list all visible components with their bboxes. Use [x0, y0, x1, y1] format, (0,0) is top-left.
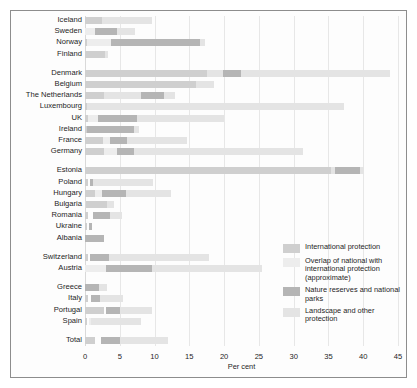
bar-segment-intl [85, 212, 88, 219]
bar-segment-landscape [120, 307, 152, 314]
x-tick-25: 25 [255, 352, 263, 361]
bar-row [85, 81, 398, 88]
y-label-iceland: Iceland [10, 16, 82, 24]
bar-segment-intl [85, 179, 88, 186]
y-label-hungary: Hungary [10, 189, 82, 197]
bar-row [85, 115, 398, 122]
y-label-ireland: Ireland [10, 125, 82, 133]
bar-segment-overlap [104, 148, 117, 155]
y-label-ukraine: Ukraine [10, 222, 82, 230]
bar-segment-nature [117, 148, 134, 155]
y-label-germany: Germany [10, 147, 82, 155]
y-label-france: France [10, 136, 82, 144]
y-label-switzerland: Switzerland [10, 253, 82, 261]
x-tick-30: 30 [289, 352, 297, 361]
x-tick-0: 0 [83, 352, 87, 361]
bar-segment-nature [85, 284, 99, 291]
bar-segment-landscape [126, 190, 171, 197]
bar-segment-intl [85, 318, 87, 325]
y-label-the-netherlands: The Netherlands [10, 91, 82, 99]
bar-segment-landscape [110, 212, 122, 219]
bar-segment-landscape [200, 39, 206, 46]
bar-segment-intl [85, 51, 105, 58]
bar-segment-intl [85, 167, 331, 174]
legend-swatch-intl [283, 244, 300, 253]
bar-segment-landscape [109, 254, 209, 261]
legend-item-intl: International protection [283, 243, 403, 253]
bar-segment-nature [85, 235, 104, 242]
bar-segment-nature [95, 28, 117, 35]
bar-segment-landscape [105, 51, 108, 58]
legend-swatch-overlap [283, 258, 300, 267]
bar-segment-landscape [100, 295, 122, 302]
x-tick-45: 45 [394, 352, 402, 361]
y-label-denmark: Denmark [10, 69, 82, 77]
bar-row [85, 223, 398, 230]
x-axis-title: Per cent [85, 362, 398, 371]
y-label-sweden: Sweden [10, 27, 82, 35]
bar-segment-nature [91, 295, 100, 302]
bar-row [85, 179, 398, 186]
bar-segment-nature [89, 223, 92, 230]
bar-segment-landscape [87, 103, 344, 110]
legend-label-nature: Nature reserves and national parks [305, 286, 403, 303]
legend-swatch-nature [283, 287, 300, 296]
bar-segment-nature [106, 307, 120, 314]
bar-segment-landscape [93, 179, 154, 186]
bar-segment-nature [111, 39, 199, 46]
bar-segment-landscape [134, 126, 139, 133]
bar-row [85, 212, 398, 219]
legend-label-landscape: Landscape and other protection [305, 307, 403, 324]
bar-segment-intl [85, 92, 104, 99]
x-tick-35: 35 [324, 352, 332, 361]
bar-segment-landscape [117, 28, 135, 35]
bar-row [85, 201, 398, 208]
bar-segment-landscape [120, 337, 169, 344]
legend-item-nature: Nature reserves and national parks [283, 286, 403, 303]
y-label-austria: Austria [10, 264, 82, 272]
y-label-italy: Italy [10, 294, 82, 302]
bar-row [85, 167, 398, 174]
bar-segment-intl [85, 295, 88, 302]
bar-row [85, 337, 398, 344]
bar-row [85, 103, 398, 110]
x-tick-5: 5 [118, 352, 122, 361]
bar-row [85, 235, 398, 242]
bar-row [85, 190, 398, 197]
bar-row [85, 126, 398, 133]
bar-segment-landscape [99, 284, 107, 291]
legend-item-landscape: Landscape and other protection [283, 307, 403, 324]
y-label-total: Total [10, 336, 82, 344]
bar-segment-intl [85, 148, 104, 155]
bar-segment-nature [93, 212, 110, 219]
x-tick-10: 10 [150, 352, 158, 361]
y-label-romania: Romania [10, 211, 82, 219]
bar-row [85, 70, 398, 77]
bar-segment-nature [141, 92, 164, 99]
bar-segment-overlap [103, 137, 110, 144]
y-label-bulgaria: Bulgaria [10, 200, 82, 208]
bar-segment-nature [87, 126, 134, 133]
bar-segment-landscape [127, 137, 187, 144]
bar-segment-overlap [88, 115, 98, 122]
legend-label-intl: International protection [305, 243, 380, 251]
y-label-greece: Greece [10, 283, 82, 291]
bar-segment-nature [106, 265, 152, 272]
y-label-norway: Norway [10, 38, 82, 46]
bar-row [85, 28, 398, 35]
bar-segment-intl [86, 201, 107, 208]
bar-segment-landscape [102, 17, 151, 24]
bar-segment-nature [101, 337, 120, 344]
bar-row [85, 39, 398, 46]
bar-segment-nature [90, 254, 109, 261]
bar-row [85, 17, 398, 24]
bar-row [85, 51, 398, 58]
legend-label-overlap: Overlap of national with international p… [305, 257, 403, 282]
legend-item-overlap: Overlap of national with international p… [283, 257, 403, 282]
y-label-spain: Spain [10, 317, 82, 325]
bar-row [85, 148, 398, 155]
bar-segment-landscape [164, 92, 176, 99]
bar-segment-overlap [85, 265, 106, 272]
y-label-portugal: Portugal [10, 306, 82, 314]
x-tick-15: 15 [185, 352, 193, 361]
